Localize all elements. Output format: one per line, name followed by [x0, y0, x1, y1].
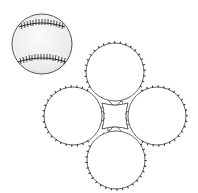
- diagram-canvas: Baseball cover pattern: [0, 0, 198, 193]
- lobe-stitch: [143, 149, 145, 150]
- lobe-stitch: [142, 81, 144, 82]
- lobe-stitch: [82, 87, 83, 89]
- lobe-stitch: [164, 86, 165, 88]
- lobe-stitch: [50, 95, 52, 97]
- lobe-stitch: [87, 151, 89, 152]
- lobe-stitch: [96, 181, 98, 183]
- lobe-stitch: [86, 168, 88, 169]
- lobe-stitch: [66, 144, 67, 146]
- lobe-stitch: [147, 87, 148, 89]
- lobe-stitch: [184, 126, 186, 127]
- lobe-stitch: [125, 43, 126, 45]
- lobe-stitch: [143, 64, 145, 65]
- lobe-stitch: [51, 136, 53, 138]
- lobe-stitch: [65, 86, 66, 88]
- lobe-stitch: [164, 144, 165, 146]
- lobe-stitch: [94, 50, 96, 52]
- center-square: [102, 103, 128, 129]
- lobe-stitch: [122, 188, 123, 190]
- lobe-stitch: [92, 177, 94, 178]
- lobe-stitch: [178, 135, 180, 137]
- lobe-stitch: [85, 65, 87, 66]
- baseball-illustration: [12, 14, 72, 74]
- lobe-stitch: [177, 95, 179, 97]
- lobe-stitch: [44, 105, 46, 106]
- lobe-stitch: [136, 180, 138, 182]
- lobe-stitch: [134, 49, 136, 51]
- bridge-stitch: [120, 101, 122, 103]
- lobe-stitch: [106, 187, 107, 189]
- lobe-stitch: [86, 81, 88, 82]
- lobe-stitch: [147, 143, 148, 145]
- lobe-stitch: [82, 143, 83, 145]
- bridge-stitch: [108, 128, 110, 130]
